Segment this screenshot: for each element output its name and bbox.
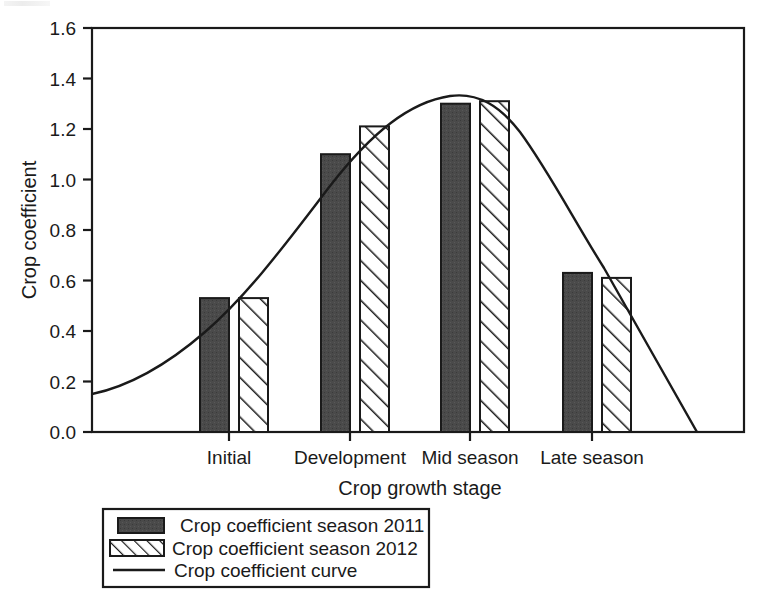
y-tick-label-7: 1.4 [50,69,77,90]
plot-area-border [92,28,744,432]
y-tick-label-0: 0.0 [50,422,76,443]
hatched-swatch-icon [110,540,164,556]
bar-2012-mid-season [480,101,509,432]
legend-item-2012[interactable]: Crop coefficient season 2012 [110,538,418,559]
legend-label-2011: Crop coefficient season 2011 [180,515,424,536]
plot-frame [92,28,744,432]
y-tick-label-2: 0.4 [50,321,77,342]
bar-2012-development [360,126,389,432]
bar-2012-late-season [602,278,631,432]
bar-2012-initial [239,298,268,432]
y-tick-label-4: 0.8 [50,220,76,241]
legend-item-2011[interactable]: Crop coefficient season 2011 [118,515,424,536]
y-tick-label-5: 1.0 [50,170,76,191]
crop-coefficient-chart: 0.0 0.2 0.4 0.6 0.8 1.0 1.2 1.4 1.6 Crop… [0,0,765,604]
y-tick-label-1: 0.2 [50,372,76,393]
x-axis-title: Crop growth stage [338,477,501,499]
legend-label-curve: Crop coefficient curve [174,560,357,581]
y-tick-group [83,28,92,432]
bar-2011-mid-season [441,104,470,432]
y-tick-label-3: 0.6 [50,271,76,292]
x-axis: Initial Development Mid season Late seas… [207,432,644,499]
y-tick-label-8: 1.6 [50,18,76,39]
x-category-label-mid-season: Mid season [421,447,518,468]
x-category-label-development: Development [294,447,407,468]
scan-artifact [4,1,50,6]
solid-dark-swatch-icon [118,518,164,533]
x-category-label-initial: Initial [207,447,251,468]
bar-2011-development [321,154,350,432]
bar-2011-late-season [563,273,592,432]
y-tick-label-6: 1.2 [50,119,76,140]
chart-figure: 0.0 0.2 0.4 0.6 0.8 1.0 1.2 1.4 1.6 Crop… [0,0,765,604]
bar-2011-initial [200,298,229,432]
legend-label-2012: Crop coefficient season 2012 [172,538,418,559]
y-axis: 0.0 0.2 0.4 0.6 0.8 1.0 1.2 1.4 1.6 Crop… [18,18,92,443]
y-axis-title: Crop coefficient [18,160,40,299]
legend-box: Crop coefficient season 2011 Crop coeffi… [103,509,429,587]
x-category-label-late-season: Late season [540,447,644,468]
